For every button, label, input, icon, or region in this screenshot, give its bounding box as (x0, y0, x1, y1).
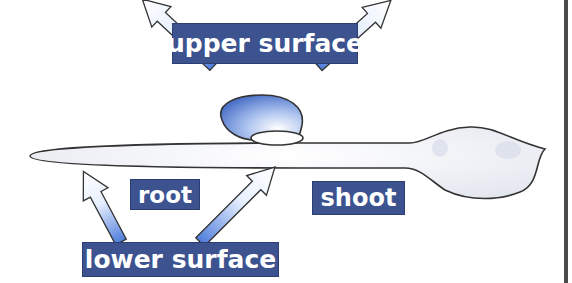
arrow-lower-right (190, 157, 285, 252)
diagram-canvas: upper surface root shoot lower surface (0, 0, 572, 283)
right-border-line (564, 0, 568, 283)
leaf-spot (495, 141, 521, 159)
shoot-label: shoot (312, 181, 405, 215)
leaf-spot (432, 139, 448, 157)
seed-base (251, 131, 303, 145)
arrow-lower-left (71, 165, 133, 249)
root-label: root (130, 179, 200, 210)
upper-surface-label: upper surface (172, 23, 358, 64)
lower-surface-label: lower surface (82, 242, 279, 277)
